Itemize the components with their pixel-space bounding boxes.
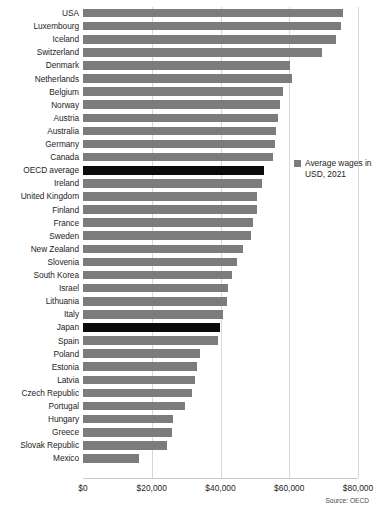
category-label-switzerland: Switzerland [0,46,79,59]
category-label-greece: Greece [0,426,79,439]
category-label-france: France [0,217,79,230]
category-label-israel: Israel [0,282,79,295]
bar-czech-republic [83,389,192,398]
source-note: Source: OECD [325,497,369,504]
bar-row [83,73,358,86]
bar-row [83,7,358,20]
category-label-south-korea: South Korea [0,269,79,282]
bar-hungary [83,415,173,424]
category-label-hungary: Hungary [0,413,79,426]
bar-spain [83,336,218,345]
bar-row [83,204,358,217]
bar-slovenia [83,258,237,267]
bar-poland [83,349,200,358]
y-axis-category-labels: USALuxembourgIcelandSwitzerlandDenmarkNe… [0,7,79,478]
category-label-portugal: Portugal [0,400,79,413]
legend-label: Average wages in USD, 2021 [305,158,372,179]
bar-row [83,269,358,282]
category-label-belgium: Belgium [0,86,79,99]
x-axis-tick-labels: $0$20,000$40,000$60,000$80,000 [0,481,377,497]
bar-south-korea [83,271,232,280]
bar-france [83,218,253,227]
bar-row [83,125,358,138]
bar-luxembourg [83,22,341,31]
bar-row [83,217,358,230]
category-label-czech-republic: Czech Republic [0,387,79,400]
category-label-japan: Japan [0,321,79,334]
bar-switzerland [83,48,322,57]
bar-israel [83,284,228,293]
category-label-norway: Norway [0,99,79,112]
bar-latvia [83,376,195,385]
category-label-new-zealand: New Zealand [0,243,79,256]
bar-netherlands [83,74,292,83]
bar-row [83,295,358,308]
bar-row [83,46,358,59]
bar-row [83,99,358,112]
bar-austria [83,114,278,123]
x-axis-line [83,478,358,479]
bar-norway [83,100,280,109]
bar-united-kingdom [83,192,257,201]
bar-germany [83,140,275,149]
gridline-80000 [358,7,359,478]
bar-row [83,256,358,269]
category-label-slovak-republic: Slovak Republic [0,439,79,452]
category-label-austria: Austria [0,112,79,125]
category-label-oecd-average: OECD average [0,164,79,177]
bar-row [83,374,358,387]
x-tick-40000: $40,000 [205,483,235,493]
category-label-finland: Finland [0,204,79,217]
bar-row [83,282,358,295]
bar-row [83,439,358,452]
bar-japan [83,323,220,332]
bar-slovak-republic [83,441,167,450]
category-label-germany: Germany [0,138,79,151]
bar-mexico [83,454,139,463]
legend-swatch-icon [294,160,301,167]
bar-row [83,413,358,426]
x-tick-20000: $20,000 [137,483,167,493]
bar-row [83,230,358,243]
bar-row [83,20,358,33]
bar-row [83,348,358,361]
category-label-netherlands: Netherlands [0,73,79,86]
bar-row [83,452,358,465]
bar-row [83,33,358,46]
bar-portugal [83,402,185,411]
bar-estonia [83,362,197,371]
bar-oecd-average [83,166,264,175]
bar-row [83,400,358,413]
bar-iceland [83,35,336,44]
category-label-denmark: Denmark [0,59,79,72]
bar-italy [83,310,223,319]
x-tick-80000: $80,000 [343,483,373,493]
category-label-slovenia: Slovenia [0,256,79,269]
bar-row [83,190,358,203]
bar-row [83,177,358,190]
category-label-poland: Poland [0,348,79,361]
category-label-estonia: Estonia [0,361,79,374]
bar-row [83,335,358,348]
bar-row [83,387,358,400]
bar-row [83,361,358,374]
bar-denmark [83,61,290,70]
bar-belgium [83,87,283,96]
bar-row [83,86,358,99]
bar-row [83,59,358,72]
category-label-spain: Spain [0,335,79,348]
category-label-mexico: Mexico [0,452,79,465]
bar-chart: USALuxembourgIcelandSwitzerlandDenmarkNe… [0,0,377,511]
category-label-sweden: Sweden [0,230,79,243]
x-tick-0: $0 [78,483,87,493]
bar-row [83,138,358,151]
bar-canada [83,153,273,162]
bar-sweden [83,231,251,240]
category-label-canada: Canada [0,151,79,164]
category-label-iceland: Iceland [0,33,79,46]
category-label-australia: Australia [0,125,79,138]
plot-area [83,7,358,478]
category-label-usa: USA [0,7,79,20]
bar-row [83,243,358,256]
x-tick-60000: $60,000 [274,483,304,493]
